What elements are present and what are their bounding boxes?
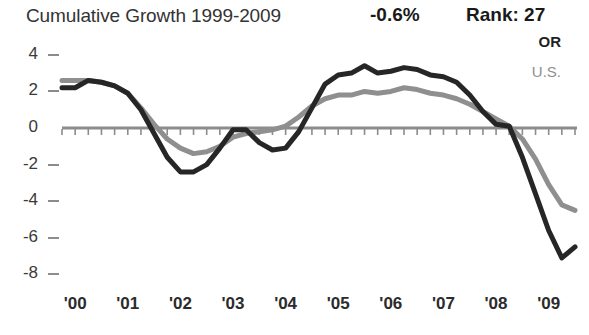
series-line-or [62, 66, 575, 258]
plot-area: 420-2-4-6-8 '00'01'02'03'04'05'06'07'08'… [0, 0, 589, 335]
cumulative-growth-chart: Cumulative Growth 1999-2009 -0.6% Rank: … [0, 0, 589, 335]
series-layer [0, 0, 589, 335]
